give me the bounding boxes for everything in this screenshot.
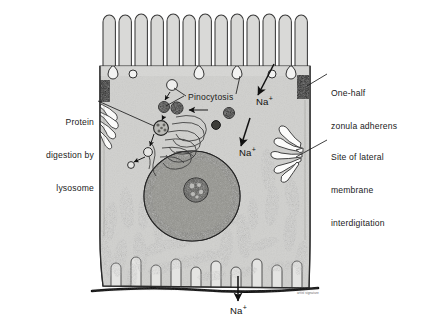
label-zonula-line1: One-half (331, 88, 397, 99)
label-interdigitation-line2: membrane (331, 185, 385, 196)
na-charge-basal: + (243, 304, 247, 311)
microvilli-group (103, 14, 307, 72)
na-symbol-basal: Na (230, 305, 243, 316)
na-charge-lateral: + (252, 146, 256, 153)
label-lysosome-line1: Protein (8, 117, 94, 128)
label-lysosome-line3: lysosome (8, 183, 94, 194)
label-interdigitation-line1: Site of lateral (331, 152, 385, 163)
label-lysosome-line2: digestion by (8, 150, 94, 161)
label-protein-digestion-lysosome: Protein digestion by lysosome (8, 95, 94, 205)
na-charge-apical: + (269, 95, 273, 102)
label-interdigitation-line3: interdigitation (331, 218, 385, 229)
artist-signature: artist signature (297, 291, 319, 295)
na-symbol-apical: Na (256, 96, 269, 107)
epithelial-cell-body (92, 14, 318, 293)
label-pinocytosis: Pinocytosis (188, 92, 233, 103)
label-na-basal: Na+ (230, 305, 247, 316)
label-na-lateral: Na+ (239, 147, 256, 158)
label-lateral-interdigitation: Site of lateral membrane interdigitation (331, 130, 385, 240)
na-symbol-lateral: Na (239, 147, 252, 158)
label-na-apical: Na+ (256, 96, 273, 107)
basement-membrane (92, 288, 318, 292)
nucleolus (184, 178, 208, 202)
nucleus (144, 151, 240, 241)
